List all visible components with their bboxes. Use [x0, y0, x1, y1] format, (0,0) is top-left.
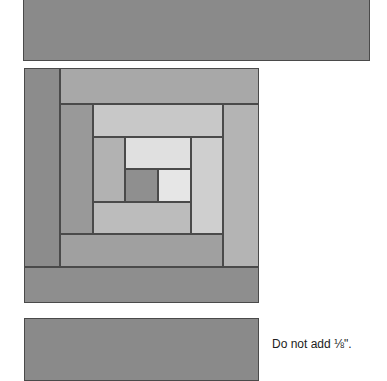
log-bottom-second — [60, 234, 223, 267]
log-left-outer — [24, 68, 60, 267]
center-square — [125, 169, 158, 202]
log-left-third — [93, 137, 125, 202]
log-top-third — [93, 104, 223, 137]
log-right-second — [223, 104, 259, 267]
bottom-fabric-strip — [24, 318, 259, 381]
log-right-third — [191, 137, 223, 234]
log-top-inner — [125, 137, 191, 169]
seam-allowance-note: Do not add ⅛". — [272, 337, 352, 351]
log-right-inner — [158, 169, 191, 202]
top-fabric-strip — [23, 0, 370, 61]
log-top-outer — [60, 68, 259, 104]
log-bottom-third — [93, 202, 191, 234]
log-bottom-outer — [24, 267, 259, 303]
log-left-second — [60, 104, 93, 234]
